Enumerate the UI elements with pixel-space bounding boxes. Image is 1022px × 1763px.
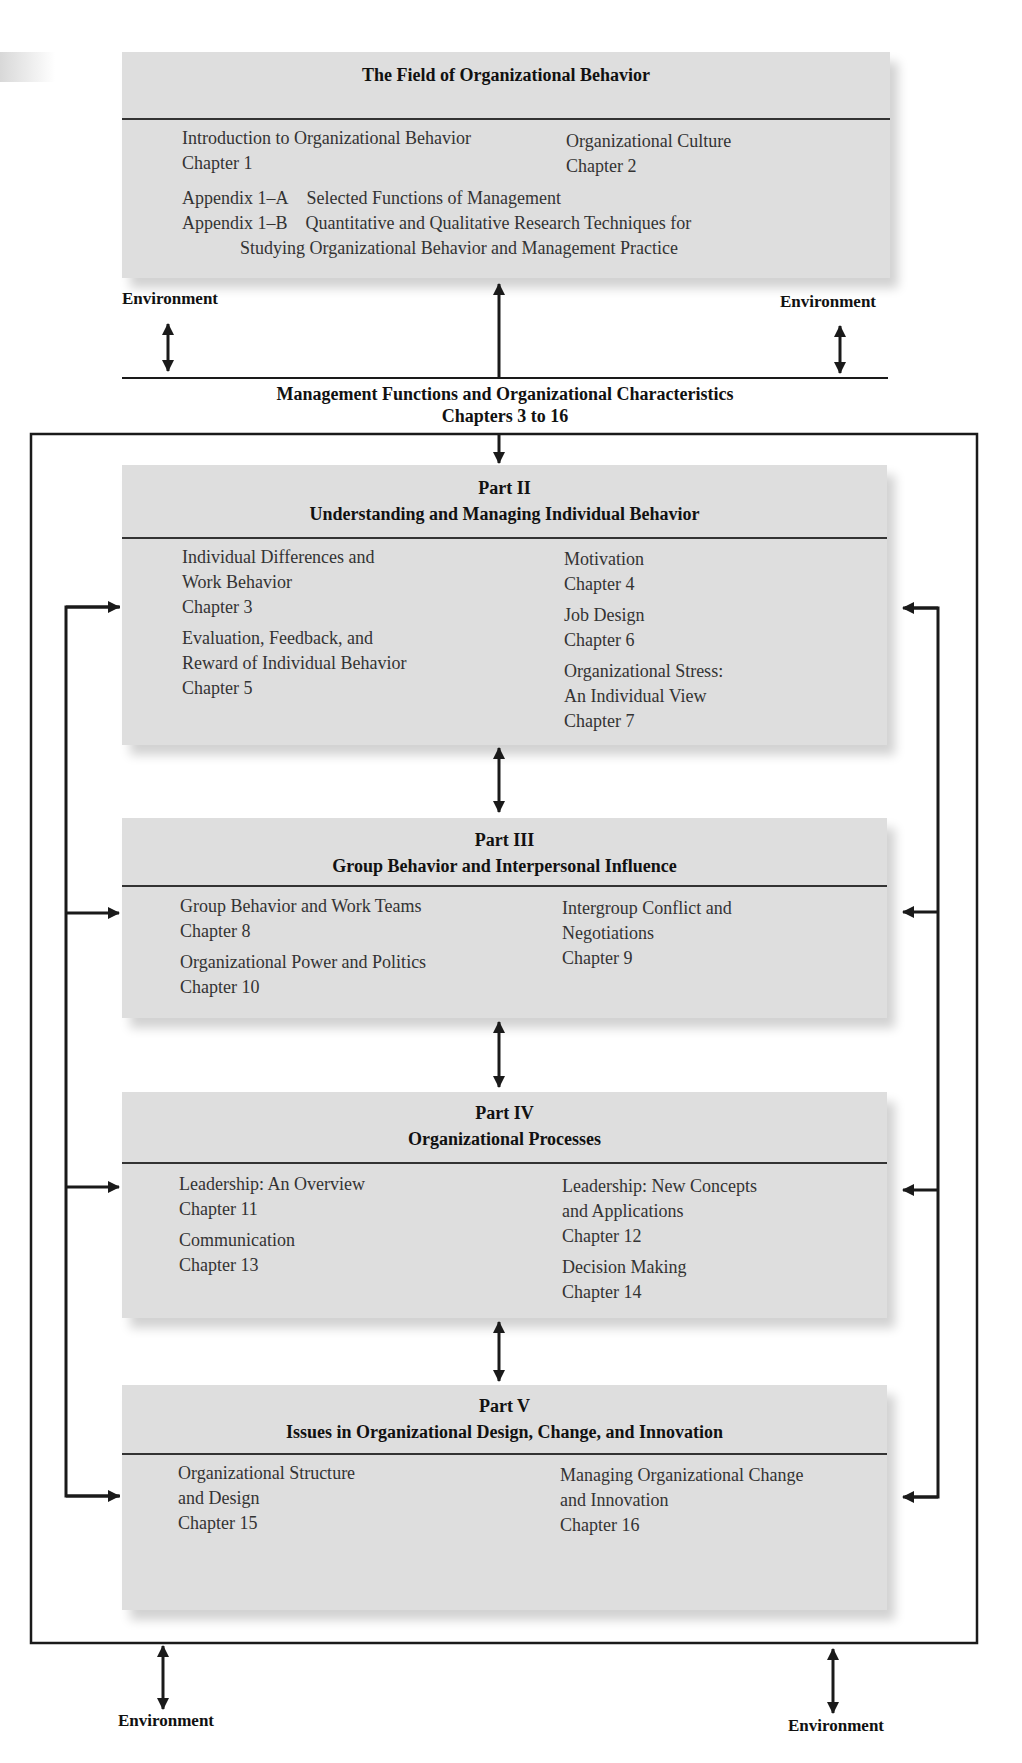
text-line: Organizational Power and Politics (180, 950, 426, 975)
appendix-list: Appendix 1–ASelected Functions of Manage… (182, 186, 882, 261)
chapter-6-item: Job DesignChapter 6 (564, 603, 723, 653)
part-title: Issues in Organizational Design, Change,… (122, 1419, 887, 1445)
appendix-a: Appendix 1–ASelected Functions of Manage… (182, 186, 882, 211)
text-line: Decision Making (562, 1255, 757, 1280)
right-column: Managing Organizational Changeand Innova… (560, 1463, 804, 1544)
part-title: Organizational Processes (122, 1126, 887, 1152)
text-line: Work Behavior (182, 570, 406, 595)
appendix-label: Appendix 1–A (182, 188, 289, 208)
text-line: Chapter 15 (178, 1511, 355, 1536)
text-line: Leadership: An Overview (179, 1172, 365, 1197)
chapter-4-item: MotivationChapter 4 (564, 547, 723, 597)
text-line: Individual Differences and (182, 545, 406, 570)
text-line: Organizational Structure (178, 1461, 355, 1486)
divider (122, 885, 887, 887)
text-line: Organizational Stress: (564, 659, 723, 684)
chapter-2-item: Organizational Culture Chapter 2 (566, 129, 731, 179)
appendix-b-continuation: Studying Organizational Behavior and Man… (182, 236, 882, 261)
part-title: Group Behavior and Interpersonal Influen… (122, 853, 887, 879)
chapter-10-item: Organizational Power and PoliticsChapter… (180, 950, 426, 1000)
chapter-15-item: Organizational Structureand DesignChapte… (178, 1461, 355, 1536)
part-ii-box: Part II Understanding and Managing Indiv… (122, 465, 887, 745)
text-line: Chapter 9 (562, 946, 732, 971)
part-title: Understanding and Managing Individual Be… (122, 501, 887, 527)
text-line: Group Behavior and Work Teams (180, 894, 426, 919)
text-line: and Innovation (560, 1488, 804, 1513)
environment-label-top-left: Environment (122, 289, 218, 309)
divider (122, 118, 890, 120)
part-label: Part IV (122, 1100, 887, 1126)
appendix-text: Quantitative and Qualitative Research Te… (306, 213, 692, 233)
text-line: Chapter 8 (180, 919, 426, 944)
field-of-ob-title: The Field of Organizational Behavior (122, 62, 890, 88)
item-chapter: Chapter 1 (182, 151, 471, 176)
text-line: An Individual View (564, 684, 723, 709)
text-line: Chapter 16 (560, 1513, 804, 1538)
text-line: Leadership: New Concepts (562, 1174, 757, 1199)
environment-label-top-right: Environment (780, 292, 876, 312)
divider (122, 1162, 887, 1164)
part-label: Part II (122, 475, 887, 501)
text-line: and Design (178, 1486, 355, 1511)
chapter-1-item: Introduction to Organizational Behavior … (182, 126, 471, 176)
field-of-ob-box: The Field of Organizational Behavior Int… (122, 52, 890, 278)
chapter-12-item: Leadership: New Conceptsand Applications… (562, 1174, 757, 1249)
management-title: Management Functions and Organizational … (122, 383, 888, 405)
left-column: Individual Differences andWork BehaviorC… (182, 545, 406, 707)
right-column: MotivationChapter 4 Job DesignChapter 6 … (564, 547, 723, 740)
item-chapter: Chapter 2 (566, 154, 731, 179)
appendix-b: Appendix 1–BQuantitative and Qualitative… (182, 211, 882, 236)
text-line: Chapter 11 (179, 1197, 365, 1222)
text-line: Motivation (564, 547, 723, 572)
management-subtitle: Chapters 3 to 16 (122, 405, 888, 427)
chapter-14-item: Decision MakingChapter 14 (562, 1255, 757, 1305)
chapter-9-item: Intergroup Conflict andNegotiationsChapt… (562, 896, 732, 971)
text-line: Chapter 10 (180, 975, 426, 1000)
item-title: Organizational Culture (566, 129, 731, 154)
text-line: Evaluation, Feedback, and (182, 626, 406, 651)
chapter-3-item: Individual Differences andWork BehaviorC… (182, 545, 406, 620)
chapter-5-item: Evaluation, Feedback, andReward of Indiv… (182, 626, 406, 701)
part-v-box: Part V Issues in Organizational Design, … (122, 1385, 887, 1610)
text-line: Chapter 3 (182, 595, 406, 620)
text-line: Chapter 5 (182, 676, 406, 701)
part-label: Part III (122, 827, 887, 853)
chapter-13-item: CommunicationChapter 13 (179, 1228, 365, 1278)
right-feedback-bracket (905, 608, 938, 1497)
left-column: Leadership: An OverviewChapter 11 Commun… (179, 1172, 365, 1284)
text-line: Chapter 4 (564, 572, 723, 597)
text-line: Negotiations (562, 921, 732, 946)
divider (122, 1453, 887, 1455)
text-line: Chapter 6 (564, 628, 723, 653)
chapter-7-item: Organizational Stress:An Individual View… (564, 659, 723, 734)
chapter-11-item: Leadership: An OverviewChapter 11 (179, 1172, 365, 1222)
text-line: and Applications (562, 1199, 757, 1224)
chapter-16-item: Managing Organizational Changeand Innova… (560, 1463, 804, 1538)
left-feedback-bracket (66, 607, 120, 1496)
text-line: Chapter 7 (564, 709, 723, 734)
divider (122, 537, 887, 539)
left-column: Group Behavior and Work TeamsChapter 8 O… (180, 894, 426, 1006)
part-label: Part V (122, 1393, 887, 1419)
scan-artifact (0, 52, 55, 82)
left-column: Organizational Structureand DesignChapte… (178, 1461, 355, 1542)
appendix-text: Selected Functions of Management (307, 188, 561, 208)
text-line: Chapter 14 (562, 1280, 757, 1305)
appendix-label: Appendix 1–B (182, 213, 288, 233)
text-line: Intergroup Conflict and (562, 896, 732, 921)
text-line: Reward of Individual Behavior (182, 651, 406, 676)
part-iv-box: Part IV Organizational Processes Leaders… (122, 1092, 887, 1318)
text-line: Chapter 13 (179, 1253, 365, 1278)
text-line: Job Design (564, 603, 723, 628)
environment-label-bottom-left: Environment (118, 1711, 214, 1731)
right-column: Leadership: New Conceptsand Applications… (562, 1174, 757, 1311)
text-line: Communication (179, 1228, 365, 1253)
right-column: Intergroup Conflict andNegotiationsChapt… (562, 896, 732, 977)
item-title: Introduction to Organizational Behavior (182, 126, 471, 151)
chapter-8-item: Group Behavior and Work TeamsChapter 8 (180, 894, 426, 944)
part-iii-box: Part III Group Behavior and Interpersona… (122, 818, 887, 1018)
environment-label-bottom-right: Environment (788, 1716, 884, 1736)
text-line: Chapter 12 (562, 1224, 757, 1249)
text-line: Managing Organizational Change (560, 1463, 804, 1488)
